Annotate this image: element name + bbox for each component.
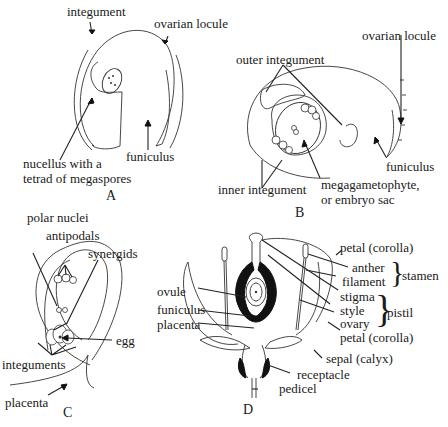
panel-a-drawing [60,22,183,160]
label-petal-bottom: petal (corolla) [340,331,413,344]
label-ovarian-locule-a: ovarian locule [154,17,228,30]
panel-letter-a: A [106,188,116,204]
label-integuments: integuments [2,358,66,371]
label-funiculus-b: funiculus [386,160,434,173]
label-petal-top: petal (corolla) [340,241,413,254]
label-filament: filament [342,275,385,288]
label-inner-integument: inner integument [218,183,306,196]
label-megagametophyte-line2: or embryo sac [321,193,395,206]
label-receptacle: receptacle [297,368,350,381]
label-ovule: ovule [157,285,186,298]
label-ovarian-locule-b: ovarian locule [362,29,436,42]
label-polar-nuclei: polar nuclei [27,211,89,224]
label-funiculus-a: funiculus [126,150,174,163]
label-funiculus-d: funiculus [157,303,205,316]
panel-letter-b: B [295,205,304,221]
label-ovary: ovary [340,317,370,330]
label-placenta-c: placenta [5,396,48,409]
panel-letter-d: D [243,402,253,418]
label-egg: egg [116,334,135,347]
label-stamen: stamen [402,269,439,282]
label-placenta-d: placenta [157,318,200,331]
label-synergids: synergids [88,247,138,260]
label-megagametophyte-line1: megagametophyte, [321,178,420,191]
label-sepal: sepal (calyx) [326,352,393,365]
label-outer-integument: outer integument [236,53,324,66]
label-nucellus-line2: tetrad of megaspores [23,172,131,185]
label-nucellus-line1: nucellus with a [23,157,102,170]
panel-letter-c: C [63,405,72,421]
label-stigma: stigma [340,290,375,303]
label-integument-a: integument [67,5,126,18]
label-pistil: pistil [387,306,413,319]
label-antipodals: antipodals [46,229,99,242]
label-anther: anther [352,261,384,274]
label-pedicel: pedicel [279,382,317,395]
